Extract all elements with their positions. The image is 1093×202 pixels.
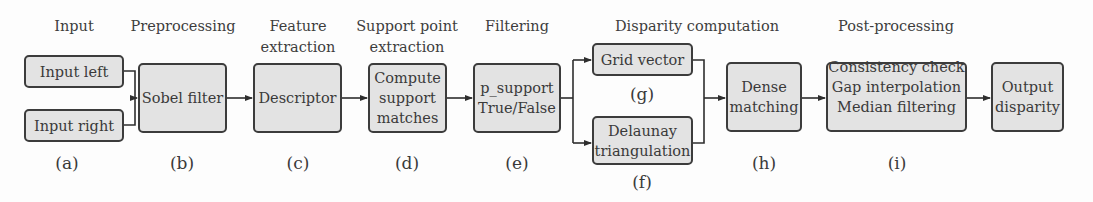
node-delaunay-triangulation: Delaunay triangulation xyxy=(592,116,693,165)
node-input-left: Input left xyxy=(24,55,124,88)
stage-post-processing: Post-processing xyxy=(838,16,954,37)
stage-disparity-computation: Disparity computation xyxy=(615,16,779,37)
step-label-f: (f) xyxy=(632,172,652,192)
node-grid-vector: Grid vector xyxy=(592,43,693,76)
step-label-i: (i) xyxy=(888,153,907,173)
step-label-h: (h) xyxy=(752,153,776,173)
pipeline-diagram: Input Preprocessing Feature extraction S… xyxy=(0,0,1093,202)
step-label-a: (a) xyxy=(55,153,78,173)
node-compute-support-matches: Compute support matches xyxy=(368,63,447,133)
step-label-b: (b) xyxy=(170,153,194,173)
stage-feature-extraction: Feature extraction xyxy=(261,16,336,58)
node-descriptor: Descriptor xyxy=(253,63,342,133)
step-label-g: (g) xyxy=(630,84,654,104)
node-p-support: p_support True/False xyxy=(473,63,561,133)
stage-filtering: Filtering xyxy=(485,16,549,37)
node-dense-matching: Dense matching xyxy=(726,62,802,132)
node-output-disparity: Output disparity xyxy=(991,62,1064,132)
node-input-right: Input right xyxy=(24,109,124,142)
step-label-c: (c) xyxy=(287,153,310,173)
node-post-processing: Consistency check Gap interpolation Medi… xyxy=(826,62,967,132)
step-label-d: (d) xyxy=(395,153,419,173)
stage-input: Input xyxy=(54,16,94,37)
step-label-e: (e) xyxy=(505,153,528,173)
stage-preprocessing: Preprocessing xyxy=(130,16,235,37)
node-sobel-filter: Sobel filter xyxy=(138,63,227,133)
stage-support-point-extraction: Support point extraction xyxy=(356,16,458,58)
